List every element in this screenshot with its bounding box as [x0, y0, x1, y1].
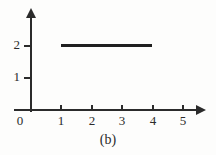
x-tick-label-1: 1 [51, 113, 71, 129]
x-axis-line [14, 109, 200, 111]
x-tick-label-5: 5 [173, 113, 193, 129]
x-tick-label-2: 2 [82, 113, 102, 129]
figure-caption: (b) [0, 132, 216, 148]
x-axis-arrow-icon [196, 105, 206, 115]
x-tick-label-4: 4 [143, 113, 163, 129]
x-tick-5 [182, 105, 184, 111]
y-tick-label-1: 1 [2, 70, 20, 84]
y-axis-line [30, 16, 32, 112]
origin-label: 0 [12, 113, 28, 129]
y-tick-label-2: 2 [2, 38, 20, 52]
x-tick-label-3: 3 [112, 113, 132, 129]
y-tick-1 [24, 77, 31, 79]
y-tick-2 [24, 45, 31, 47]
x-tick-2 [91, 105, 93, 111]
data-series-constant-segment [61, 44, 153, 47]
figure-panel: 2 1 1 2 3 4 5 0 (b) [0, 0, 216, 155]
x-tick-3 [121, 105, 123, 111]
x-tick-1 [60, 105, 62, 111]
x-tick-4 [152, 105, 154, 111]
y-axis-arrow-icon [26, 8, 36, 18]
